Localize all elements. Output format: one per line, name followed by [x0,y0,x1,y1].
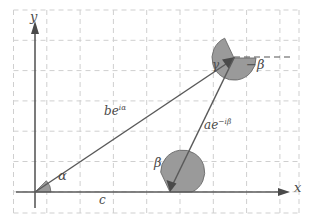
side-label-c: c [99,194,106,206]
side-label-b: beiα [104,104,126,117]
y-axis-label: y [30,10,37,23]
side-label-a: ae−iβ [204,118,231,131]
diagram-canvas [0,0,312,222]
angle-label-alpha: α [58,169,67,182]
angle-wedge-beta [161,150,205,192]
x-axis-arrowhead [278,188,290,196]
complex-triangle-diagram: y x α β γ −β beiα ae−iβ c [0,0,312,222]
side-label-a-base: ae [204,118,218,132]
x-axis-label: x [294,181,301,194]
side-label-b-base: be [104,104,119,118]
side-label-b-exponent: iα [119,103,126,112]
angle-label-gamma: γ [212,59,219,71]
side-label-a-exponent: −iβ [218,117,231,126]
axes [16,28,284,208]
angle-label-minus-beta: −β [246,58,264,71]
angle-label-beta: β [154,156,162,169]
